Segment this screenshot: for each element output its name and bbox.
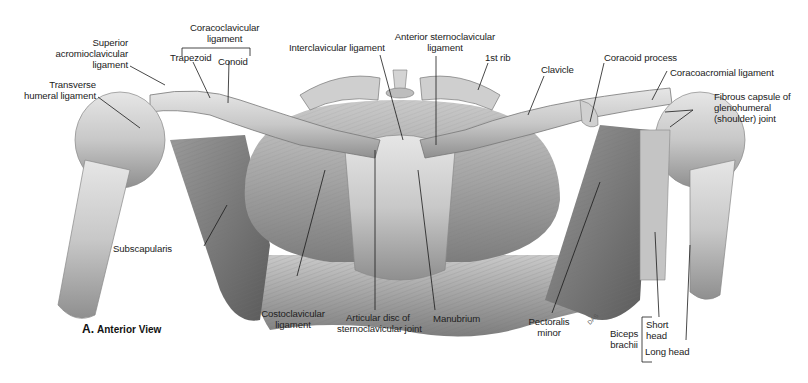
label-line: sternoclavicular joint <box>337 323 419 334</box>
label-line: Transverse <box>18 79 96 90</box>
label-fibrous-capsule-glenohumeral-joint: Fibrous capsule of glenohumeral (shoulde… <box>714 91 791 124</box>
label-line: Coracoclavicular <box>190 22 259 33</box>
label-subscapularis: Subscapularis <box>113 243 172 254</box>
label-trapezoid: Trapezoid <box>170 52 211 63</box>
label-line: Anterior sternoclavicular <box>385 31 505 42</box>
label-biceps-brachii: Biceps brachii <box>608 328 640 350</box>
label-coracoclavicular-ligament: Coracoclavicular ligament <box>190 22 259 44</box>
humerus-left <box>58 92 165 318</box>
label-manubrium: Manubrium <box>433 313 480 324</box>
label-first-rib: 1st rib <box>485 52 510 63</box>
label-anterior-sternoclavicular-ligament: Anterior sternoclavicular ligament <box>385 31 505 53</box>
label-interclavicular-ligament: Interclavicular ligament <box>289 42 385 53</box>
label-line: Costoclavicular <box>253 308 333 319</box>
label-line: minor <box>522 327 576 338</box>
label-biceps-long-head: Long head <box>645 346 689 357</box>
label-line: brachii <box>608 339 640 350</box>
label-superior-acromioclavicular-ligament: Superior acromioclavicular ligament <box>54 37 128 70</box>
label-line: (shoulder) joint <box>714 113 791 124</box>
label-line: Short <box>646 319 668 330</box>
label-coracoacromial-ligament: Coracoacromial ligament <box>670 67 774 78</box>
figure-caption: A.Anterior View <box>82 322 161 336</box>
label-line: ligament <box>190 33 259 44</box>
label-conoid: Conoid <box>218 56 248 67</box>
label-line: Pectoralis <box>522 316 576 327</box>
label-line: glenohumeral <box>714 102 791 113</box>
label-pectoralis-minor: Pectoralis minor <box>522 316 576 338</box>
label-line: humeral ligament <box>18 90 96 101</box>
panel-letter: A. <box>82 322 94 336</box>
biceps-short-head <box>640 130 670 280</box>
label-line: Fibrous capsule of <box>714 91 791 102</box>
manubrium <box>345 135 455 280</box>
label-articular-disc-sternoclavicular-joint: Articular disc of sternoclavicular joint <box>337 312 419 334</box>
label-costoclavicular-ligament: Costoclavicular ligament <box>253 308 333 330</box>
vertebra <box>393 70 407 90</box>
label-line: ligament <box>54 59 128 70</box>
caption-text: Anterior View <box>97 324 161 335</box>
label-coracoid-process: Coracoid process <box>604 52 677 63</box>
label-line: acromioclavicular <box>54 48 128 59</box>
label-line: ligament <box>253 319 333 330</box>
label-transverse-humeral-ligament: Transverse humeral ligament <box>18 79 96 101</box>
label-clavicle: Clavicle <box>541 64 574 75</box>
label-line: Articular disc of <box>337 312 419 323</box>
label-line: head <box>646 330 668 341</box>
label-line: Superior <box>54 37 128 48</box>
label-line: Biceps <box>608 328 640 339</box>
label-biceps-short-head: Short head <box>646 319 668 341</box>
